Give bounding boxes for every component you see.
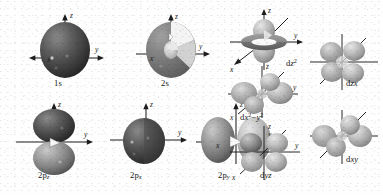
lobe-back <box>260 73 280 91</box>
sphere-body <box>40 22 90 78</box>
orbital-label-dx2-y2: dx2−y2 <box>240 112 264 122</box>
orbital-figure: z y x 1s z y <box>0 0 383 195</box>
z-axis-arrowhead <box>168 14 174 20</box>
orbital-2pz-render: z y <box>10 96 98 188</box>
axis-label-x: x <box>231 173 236 182</box>
lobe-lower-right <box>265 152 287 172</box>
orbital-2s-render: z y x <box>128 6 214 92</box>
orbital-1s: z y x 1s <box>22 6 108 92</box>
axis-label-z: z <box>267 122 271 131</box>
axis-label-y: y <box>198 42 203 51</box>
z-axis-arrowhead <box>261 9 266 15</box>
lobe-center <box>336 56 348 68</box>
axis-label-z: z <box>149 100 153 109</box>
axis-label-x: x <box>149 54 154 63</box>
orbital-dyz: z y x dyz <box>224 122 306 186</box>
orbital-label-2px: 2px <box>130 170 142 180</box>
y-axis-arrowhead <box>297 39 303 44</box>
z-axis-arrowhead <box>62 14 68 20</box>
z-axis-arrowhead <box>143 103 148 109</box>
orbital-2px-render: z y <box>104 96 192 188</box>
y-axis-arrowhead <box>204 51 210 57</box>
orbital-dzx-render <box>306 30 382 96</box>
axis-label-x: x <box>215 141 220 150</box>
orbital-dxy-render <box>306 106 382 174</box>
orbital-label-dxy: dxy <box>346 154 358 164</box>
orbital-2pz: z y 2pz <box>10 96 98 188</box>
lobe-center <box>337 131 347 141</box>
lobe-lower-left <box>241 152 263 172</box>
axis-label-y: y <box>293 31 298 40</box>
orbital-dxy: dxy <box>306 106 382 174</box>
orbital-label-2pz: 2pz <box>38 170 49 180</box>
axis-label-x: x <box>229 113 234 122</box>
z-axis-arrowhead <box>51 103 56 109</box>
orbital-dzx: dzx <box>306 30 382 96</box>
orbital-1s-render: z y x <box>22 6 108 92</box>
axis-label-y: y <box>177 128 182 137</box>
axis-label-z: z <box>174 12 178 21</box>
axis-label-x: x <box>46 55 51 64</box>
orbital-dx2y2-render: z y x <box>222 62 306 124</box>
orbital-label-1s: 1s <box>54 78 62 88</box>
axis-label-y: y <box>294 141 299 150</box>
orbital-label-dzx: dzx <box>346 78 358 88</box>
orbital-2s: z y x 2s <box>128 6 214 92</box>
axis-label-y: y <box>83 130 88 139</box>
axis-label-z: z <box>265 62 269 71</box>
axis-label-y: y <box>292 83 297 92</box>
y-axis-arrowhead <box>98 55 104 61</box>
axis-label-y: y <box>94 45 99 54</box>
lobe-upper-right <box>266 133 288 153</box>
orbital-label-dyz: dyz <box>260 170 272 180</box>
axis-label-z: z <box>69 11 73 20</box>
x-axis-arrowhead <box>29 55 35 61</box>
axis-label-z: z <box>267 6 271 15</box>
upper-lobe <box>33 109 75 143</box>
orbital-label-2s: 2s <box>161 78 169 88</box>
lobe-center <box>257 89 267 99</box>
orbital-dx2-y2: z y x dx2−y2 <box>222 62 306 124</box>
y-axis-arrowhead <box>87 139 93 144</box>
orbital-2px: z y 2px <box>104 96 192 188</box>
lobe-upper-left <box>240 133 262 153</box>
axis-label-z: z <box>57 100 61 109</box>
y-axis-arrowhead <box>181 137 187 142</box>
far-lobe-hint <box>144 118 165 164</box>
